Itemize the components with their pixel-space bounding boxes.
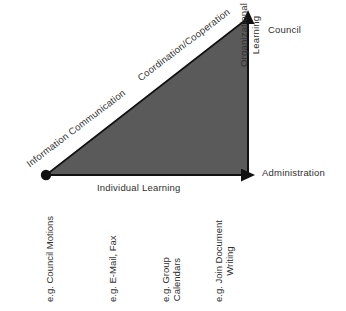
- example-label-line2: Calendars: [171, 257, 182, 302]
- example-label-email-fax: e.g. E-Mail, Fax: [107, 235, 118, 302]
- example-label-joint-document: e.g. Join Document Writing: [213, 220, 236, 302]
- example-label-council-motions: e.g. Council Motions: [44, 216, 55, 302]
- example-label-group-calendars: e.g. Group Calendars: [160, 257, 183, 302]
- x-axis-title: Individual Learning: [97, 182, 181, 193]
- example-label-line1: e.g. Council Motions: [44, 216, 55, 302]
- example-label-line1: e.g. Group: [160, 257, 171, 302]
- example-label-line2: Writing: [224, 220, 235, 302]
- y-axis-title-line1: Organizational: [238, 3, 249, 67]
- axis-label-council: Council: [268, 24, 301, 35]
- origin-dot-icon: [41, 170, 51, 180]
- diagram-canvas: Council Administration Individual Learni…: [0, 0, 346, 311]
- axis-label-administration: Administration: [262, 167, 325, 178]
- y-axis-title: Organizational Learning: [238, 0, 261, 78]
- example-label-line1: e.g. Join Document: [213, 220, 224, 302]
- example-label-line1: e.g. E-Mail, Fax: [107, 235, 118, 302]
- y-axis-title-line2: Learning: [250, 0, 262, 78]
